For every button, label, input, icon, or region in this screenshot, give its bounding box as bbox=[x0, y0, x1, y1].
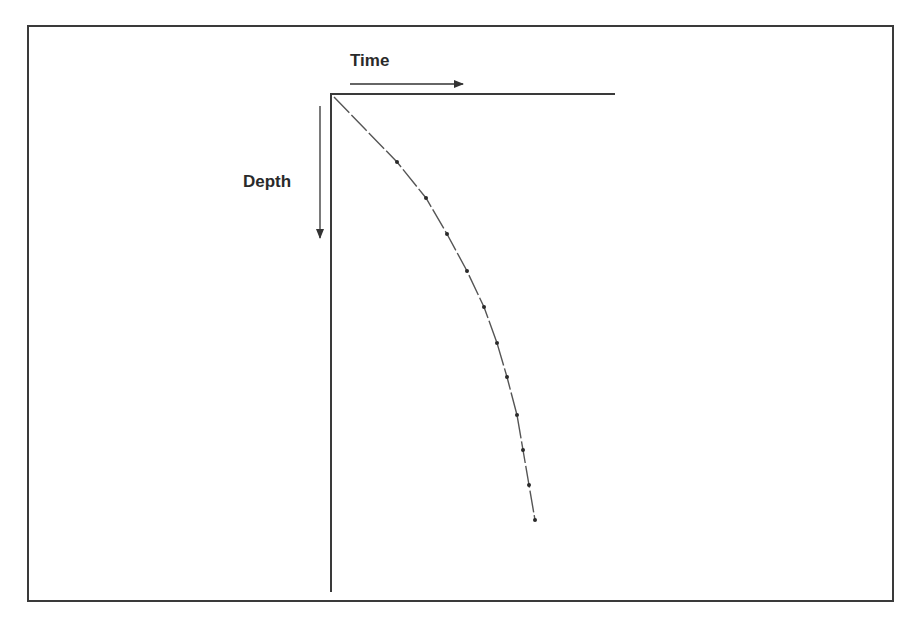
depth-curve bbox=[334, 97, 535, 520]
y-axis-label: Depth bbox=[243, 173, 291, 190]
data-point bbox=[515, 413, 519, 417]
data-point bbox=[505, 375, 509, 379]
data-point bbox=[495, 341, 499, 345]
depth-time-diagram bbox=[0, 0, 918, 622]
data-point bbox=[521, 448, 525, 452]
data-point bbox=[527, 483, 531, 487]
x-axis-label: Time bbox=[350, 52, 389, 69]
data-point bbox=[482, 305, 486, 309]
data-point bbox=[465, 269, 469, 273]
data-point bbox=[424, 196, 428, 200]
data-point bbox=[445, 232, 449, 236]
data-point bbox=[395, 160, 399, 164]
data-point bbox=[533, 518, 537, 522]
curve-data-points bbox=[395, 160, 537, 522]
